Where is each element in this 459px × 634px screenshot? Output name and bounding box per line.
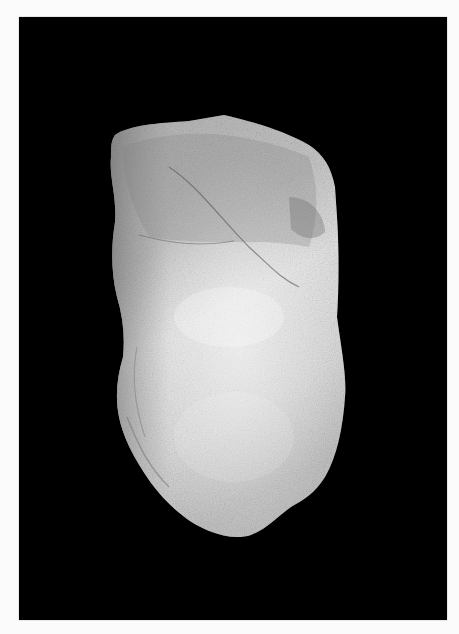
rock-specimen-image — [19, 17, 447, 620]
photo-frame — [19, 17, 447, 620]
